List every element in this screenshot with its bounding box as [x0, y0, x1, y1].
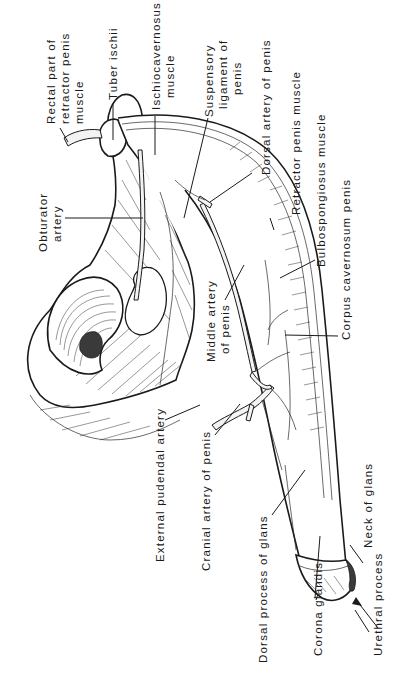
label-line: Urethral process [372, 552, 384, 656]
anatomy-diagram: Rectal part of retractor penis muscle Tu… [0, 0, 406, 680]
label-line: Corona glandis [312, 562, 324, 656]
label-obturator-artery: Obturator artery [37, 193, 63, 252]
label-line: External pudendal artery [154, 408, 166, 562]
label-line: Cranial artery of penis [200, 431, 212, 571]
label-line: ligament of [217, 40, 229, 109]
label-line: penis [231, 62, 243, 96]
label-corona-glandis: Corona glandis [312, 562, 324, 656]
label-dorsal-artery: Dorsal artery of penis [260, 39, 272, 175]
label-line: Bulbospongiosus muscle [315, 113, 327, 267]
label-neck-of-glans: Neck of glans [362, 463, 374, 548]
label-line: Corpus cavernosum penis [340, 179, 352, 340]
label-line: Middle artery [205, 280, 217, 362]
glans [296, 555, 356, 600]
label-suspensory-ligament: Suspensory ligament of penis [203, 40, 243, 117]
label-external-pudendal: External pudendal artery [154, 408, 166, 562]
label-tuber-ischii: Tuber ischii [107, 27, 119, 100]
label-line: of penis [219, 304, 231, 354]
label-rectal-part-retractor: Rectal part of retractor penis muscle [45, 32, 85, 124]
label-line: Retractor penis muscle [290, 71, 302, 215]
label-line: artery [51, 205, 63, 242]
label-line: Tuber ischii [107, 27, 119, 100]
label-line: Neck of glans [362, 463, 374, 548]
drawing [28, 94, 356, 600]
label-line: muscle [164, 54, 176, 98]
label-line: Dorsal process of glans [257, 515, 269, 663]
label-cranial-artery: Cranial artery of penis [200, 431, 212, 571]
label-line: Rectal part of [45, 39, 57, 124]
rectal-retractor-band [64, 129, 102, 146]
label-retractor-penis: Retractor penis muscle [290, 71, 302, 215]
label-bulbospongiosus: Bulbospongiosus muscle [315, 113, 327, 267]
label-ischiocavernosus: Ischiocavernosus muscle [150, 2, 176, 110]
label-line: muscle [73, 80, 85, 124]
label-urethral-process: Urethral process [372, 552, 384, 656]
label-line: Suspensory [203, 44, 215, 117]
label-line: Ischiocavernosus [150, 2, 162, 110]
label-line: retractor penis [59, 32, 71, 124]
label-line: Obturator [37, 193, 49, 252]
label-corpus-cavernosum: Corpus cavernosum penis [340, 179, 352, 340]
label-line: Dorsal artery of penis [260, 39, 272, 175]
label-dorsal-process-glans: Dorsal process of glans [257, 515, 269, 663]
